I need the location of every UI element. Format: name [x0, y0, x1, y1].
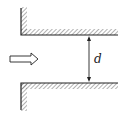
- channel-diagram: d: [0, 0, 123, 116]
- dimension-arrow-icon: [87, 36, 91, 82]
- top-wall: [21, 7, 118, 35]
- bottom-wall: [21, 83, 118, 111]
- dimension-label: d: [94, 53, 102, 65]
- flow-arrow-icon: [10, 53, 38, 65]
